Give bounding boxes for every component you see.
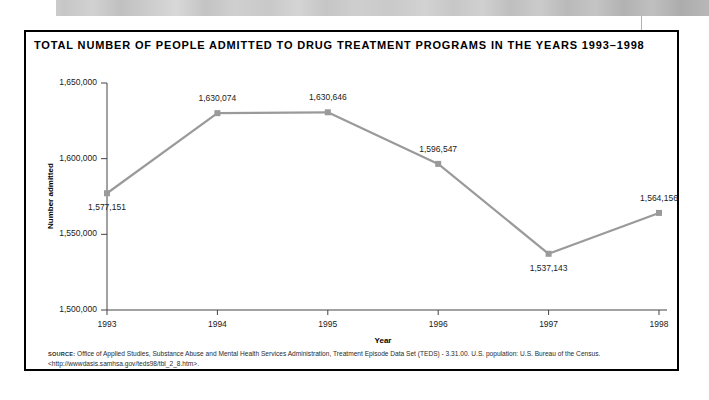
- y-tick-label: 1,650,000: [59, 77, 97, 87]
- data-point-label: 1,630,646: [288, 92, 368, 102]
- data-point-label: 1,577,151: [67, 202, 147, 212]
- tick-marks-group: [101, 83, 659, 315]
- data-point-markers: [104, 109, 662, 257]
- x-tick-label: 1993: [77, 319, 137, 329]
- data-point-marker: [546, 251, 552, 257]
- source-note: source: Office of Applied Studies, Subst…: [48, 349, 648, 369]
- banner-divider-line: [641, 16, 642, 30]
- x-axis-title: Year: [323, 336, 443, 345]
- decorative-photo-strip: [0, 0, 709, 16]
- x-tick-label: 1995: [298, 319, 358, 329]
- x-tick-label: 1996: [408, 319, 468, 329]
- data-point-label: 1,564,156: [619, 193, 699, 203]
- y-tick-label: 1,550,000: [59, 228, 97, 238]
- source-text: Office of Applied Studies, Substance Abu…: [48, 350, 600, 367]
- x-tick-label: 1994: [187, 319, 247, 329]
- data-point-marker: [325, 109, 331, 115]
- data-point-label: 1,596,547: [398, 144, 478, 154]
- y-tick-label: 1,500,000: [59, 304, 97, 314]
- data-series-line: [107, 112, 659, 254]
- data-point-label: 1,630,074: [177, 93, 257, 103]
- data-point-marker: [656, 210, 662, 216]
- banner-left-mask: [0, 0, 56, 16]
- data-point-marker: [214, 110, 220, 116]
- x-tick-label: 1997: [519, 319, 579, 329]
- data-point-marker: [104, 190, 110, 196]
- data-point-marker: [435, 161, 441, 167]
- y-axis-title: Number admitted: [46, 163, 55, 229]
- source-label: source:: [48, 351, 75, 357]
- axes-group: [107, 83, 667, 310]
- data-point-label: 1,537,143: [509, 263, 589, 273]
- x-tick-label: 1998: [629, 319, 689, 329]
- y-tick-label: 1,600,000: [59, 153, 97, 163]
- chart-plot-area: Number admitted Year 1,500,0001,550,0001…: [24, 30, 679, 371]
